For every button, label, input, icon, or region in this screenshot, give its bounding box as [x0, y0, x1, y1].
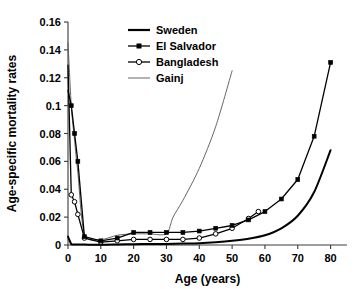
x-tick-label-1: 10: [95, 252, 107, 264]
data-point-marker: [197, 236, 202, 241]
data-point-marker: [76, 159, 80, 163]
data-point-marker: [329, 61, 333, 65]
data-point-marker: [256, 209, 261, 214]
data-point-marker: [148, 231, 152, 235]
series-line-el-salvador: [68, 62, 331, 240]
data-point-marker: [76, 212, 81, 217]
series-line-bangladesh: [68, 65, 258, 242]
y-tick-label-2: 0.04: [40, 183, 62, 195]
x-tick-label-8: 80: [324, 252, 336, 264]
legend-item-bangladesh[interactable]: Bangladesh: [128, 56, 219, 68]
data-point-marker: [132, 231, 136, 235]
y-tick-label-1: 0.02: [40, 211, 61, 223]
data-point-marker: [197, 229, 201, 233]
chart-legend: SwedenEl SalvadorBangladeshGainj: [128, 24, 219, 84]
legend-marker-filled-square-icon: [137, 44, 141, 48]
y-axis-title: Age-specific mortality rates: [5, 54, 19, 212]
series-line-gainj: [68, 43, 232, 240]
y-tick-label-3: 0.06: [40, 155, 61, 167]
data-point-marker: [83, 235, 87, 239]
x-tick-label-0: 0: [65, 252, 71, 264]
axes-group: 00.020.040.060.080.10.120.140.1601020304…: [40, 16, 347, 264]
data-point-marker: [165, 231, 169, 235]
legend-item-sweden[interactable]: Sweden: [128, 24, 198, 36]
data-point-marker: [73, 132, 77, 136]
data-point-marker: [181, 231, 185, 235]
data-point-marker: [181, 237, 186, 242]
legend-label-gainj: Gainj: [156, 72, 184, 84]
x-tick-label-4: 40: [193, 252, 205, 264]
series-group: [68, 43, 332, 245]
legend-marker-open-circle-icon: [136, 59, 141, 64]
data-point-marker: [69, 193, 74, 198]
x-tick-label-2: 20: [128, 252, 140, 264]
legend-label-sweden: Sweden: [156, 24, 198, 36]
x-tick-label-6: 60: [259, 252, 271, 264]
legend-label-el-salvador: El Salvador: [156, 40, 217, 52]
data-point-marker: [148, 237, 153, 242]
x-tick-label-3: 30: [160, 252, 172, 264]
y-tick-label-0: 0: [55, 239, 61, 251]
data-point-marker: [99, 239, 103, 243]
series-gainj: [68, 43, 232, 240]
y-tick-label-8: 0.16: [40, 16, 61, 28]
legend-label-bangladesh: Bangladesh: [156, 56, 219, 68]
data-point-marker: [296, 178, 300, 182]
data-point-marker: [213, 232, 218, 237]
data-point-marker: [230, 224, 234, 228]
y-tick-label-6: 0.12: [40, 72, 61, 84]
data-point-marker: [69, 104, 73, 108]
data-point-marker: [312, 134, 316, 138]
data-point-marker: [279, 197, 283, 201]
data-point-marker: [115, 236, 119, 240]
data-point-marker: [164, 237, 169, 242]
x-tick-label-7: 70: [292, 252, 304, 264]
legend-item-gainj[interactable]: Gainj: [128, 72, 184, 84]
series-bangladesh: [68, 65, 261, 244]
series-el-salvador: [68, 61, 332, 243]
chart-container: 00.020.040.060.080.10.120.140.1601020304…: [0, 0, 361, 289]
y-tick-label-5: 0.1: [46, 100, 61, 112]
x-tick-label-5: 50: [226, 252, 238, 264]
data-point-marker: [131, 237, 136, 242]
legend-item-el-salvador[interactable]: El Salvador: [128, 40, 217, 52]
data-point-marker: [72, 199, 77, 204]
y-tick-label-7: 0.14: [40, 44, 62, 56]
x-axis-title: Age (years): [175, 272, 240, 286]
mortality-rate-line-chart: 00.020.040.060.080.10.120.140.1601020304…: [0, 0, 361, 289]
y-tick-label-4: 0.08: [40, 128, 61, 140]
data-point-marker: [247, 218, 251, 222]
data-point-marker: [214, 226, 218, 230]
data-point-marker: [263, 210, 267, 214]
